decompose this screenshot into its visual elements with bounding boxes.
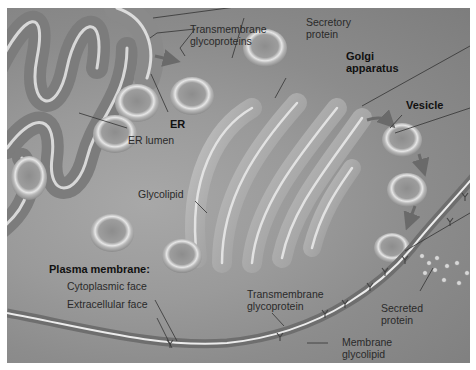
secreted-protein-dots: [420, 254, 470, 286]
secretory-pathway-diagram: Transmembrane glycoproteins Secretory pr…: [7, 8, 470, 363]
label-cytoplasmic-face: Cytoplasmic face: [67, 280, 147, 292]
label-golgi-apparatus: Golgi apparatus: [346, 50, 399, 74]
label-transmembrane-glycoprotein: Transmembrane glycoprotein: [247, 288, 324, 312]
label-er-lumen: ER lumen: [128, 134, 174, 146]
label-vesicle: Vesicle: [406, 99, 443, 111]
label-secretory-protein: Secretory protein: [306, 16, 351, 40]
label-extracellular-face: Extracellular face: [67, 298, 148, 310]
label-membrane-glycolipid: Membrane glycolipid: [342, 336, 392, 360]
golgi-apparatus: [195, 103, 362, 263]
label-secreted-protein: Secreted protein: [381, 302, 423, 326]
label-plasma-membrane: Plasma membrane:: [49, 263, 150, 275]
label-er: ER: [170, 118, 185, 130]
label-transmembrane-glycoproteins: Transmembrane glycoproteins: [190, 23, 267, 47]
label-glycolipid: Glycolipid: [138, 188, 184, 200]
